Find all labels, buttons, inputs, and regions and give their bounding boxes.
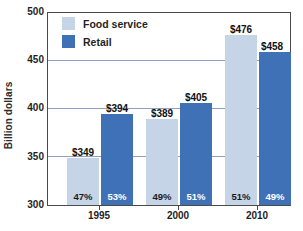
bar-2010-retail <box>259 52 291 205</box>
bar-2010-food-service <box>225 35 257 205</box>
share-label-1995-retail: 53% <box>101 191 133 202</box>
share-label-1995-food-service: 47% <box>67 191 99 202</box>
share-label-2000-retail: 51% <box>180 191 212 202</box>
y-axis-title-label: Billion dollars <box>3 82 14 150</box>
value-label-2010-food-service: $476 <box>217 24 265 35</box>
chart-legend: Food service Retail <box>62 17 148 53</box>
x-tick-2000: 2000 <box>148 210 208 221</box>
y-axis-title: Billion dollars <box>0 0 17 231</box>
share-label-2000-food-service: 49% <box>146 191 178 202</box>
legend-swatch-retail-icon <box>62 35 75 48</box>
y-tick-350: 350 <box>14 151 44 162</box>
value-label-2010-retail: $458 <box>248 41 296 52</box>
x-tick-2010: 2010 <box>227 210 287 221</box>
value-label-2000-food-service: $389 <box>138 108 186 119</box>
value-label-1995-retail: $394 <box>93 103 141 114</box>
y-tick-400: 400 <box>14 102 44 113</box>
value-label-2000-retail: $405 <box>172 92 220 103</box>
value-label-1995-food-service: $349 <box>59 147 107 158</box>
y-tick-300: 300 <box>14 199 44 210</box>
share-label-2010-retail: 49% <box>259 191 291 202</box>
x-tick-1995: 1995 <box>69 210 129 221</box>
y-tick-500: 500 <box>14 6 44 17</box>
bar-chart-figure: Billion dollars 500 450 400 350 300 $349… <box>0 0 303 231</box>
y-tick-450: 450 <box>14 54 44 65</box>
legend-swatch-food-service-icon <box>62 17 75 30</box>
legend-item-food-service: Food service <box>62 17 148 30</box>
legend-item-retail: Retail <box>62 35 148 48</box>
legend-label-retail: Retail <box>83 36 112 48</box>
legend-label-food-service: Food service <box>83 18 148 30</box>
share-label-2010-food-service: 51% <box>225 191 257 202</box>
